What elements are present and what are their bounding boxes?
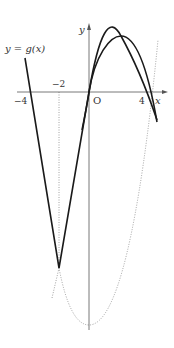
tick-label-neg4: −4 — [14, 96, 28, 106]
x-axis-label: x — [155, 95, 161, 106]
curve-g — [25, 27, 157, 268]
curve-g-right-arch — [82, 36, 157, 130]
graph-figure: y = g(x) −2 −4 O 4 x y — [0, 0, 174, 348]
y-axis-label: y — [78, 24, 85, 35]
auxiliary-parabola — [52, 40, 158, 325]
y-axis-arrow-icon — [87, 23, 91, 30]
origin-label: O — [93, 95, 101, 106]
x-axis-arrow-icon — [162, 90, 168, 94]
tick-label-neg2: −2 — [52, 79, 65, 89]
tick-label-4: 4 — [139, 96, 145, 106]
curve-label: y = g(x) — [4, 43, 45, 54]
